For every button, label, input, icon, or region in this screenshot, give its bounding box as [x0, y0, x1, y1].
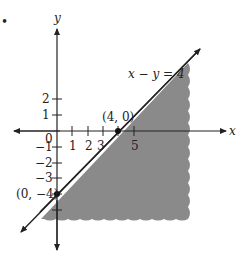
y-tick-label-neg3: −3: [35, 171, 53, 185]
y-tick-label-2: 2: [42, 92, 50, 106]
point-4-0: [115, 128, 121, 134]
point-label-4-0: (4, 0): [102, 110, 134, 124]
y-tick-label-neg1: −1: [35, 140, 53, 154]
y-tick-label-1: 1: [42, 108, 50, 122]
point-label-0-neg4: (0, −4): [16, 187, 58, 201]
x-tick-label-1: 1: [69, 139, 77, 153]
y-tick-label-neg2: −2: [35, 156, 53, 170]
stray-mark: •: [1, 15, 8, 29]
inequality-graph: • y x x − y = 4 (4, 0) (0, −4) 0 1 2: [0, 0, 243, 263]
x-tick-label-2: 2: [85, 139, 93, 153]
x-tick-label-5: 5: [131, 139, 139, 153]
shaded-region: [41, 63, 190, 221]
x-tick-label-3: 3: [97, 139, 105, 153]
equation-label: x − y = 4: [128, 67, 185, 81]
x-axis-label: x: [229, 124, 236, 138]
y-axis-label: y: [53, 11, 61, 25]
